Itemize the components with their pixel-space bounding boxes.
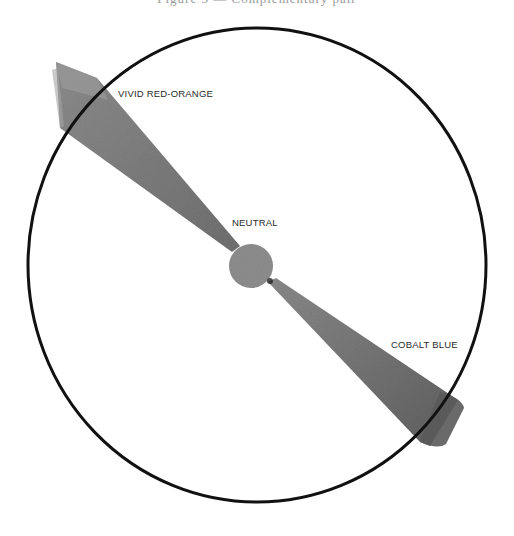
cobalt-wedge [268, 278, 464, 447]
label-vivid-red-orange: VIVID RED-ORANGE [118, 88, 213, 99]
neutral-disk [229, 244, 273, 288]
color-wheel-diagram [0, 0, 514, 536]
label-cobalt-blue: COBALT BLUE [391, 339, 458, 350]
label-neutral: NEUTRAL [232, 217, 278, 228]
